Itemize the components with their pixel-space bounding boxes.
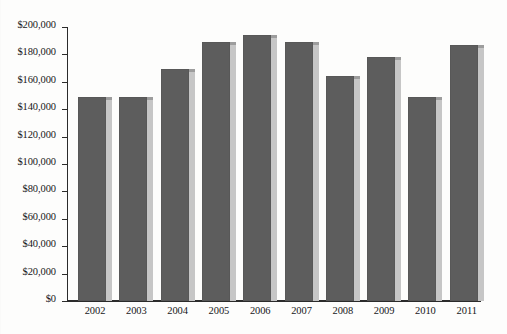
x-axis-tick-label: 2003 xyxy=(116,305,156,316)
bar-group xyxy=(75,27,115,301)
y-axis-tick-label: $200,000 xyxy=(17,19,56,30)
bar-shadow xyxy=(230,45,236,301)
y-axis-tick-label: $20,000 xyxy=(23,266,56,277)
bar-group xyxy=(240,27,280,301)
bar-shadow xyxy=(436,100,442,301)
bar-shadow xyxy=(354,79,360,301)
x-axis-tick-label: 2007 xyxy=(282,305,322,316)
x-axis-tick-label: 2005 xyxy=(199,305,239,316)
plot-area xyxy=(68,27,481,301)
bar-shadow-top xyxy=(271,35,277,38)
y-axis-tick-label: $140,000 xyxy=(17,101,56,112)
bar-group xyxy=(405,27,445,301)
bar-shadow-top xyxy=(354,76,360,79)
y-axis-tick-label: $80,000 xyxy=(23,183,56,194)
bar-group xyxy=(364,27,404,301)
bar[interactable] xyxy=(408,97,436,301)
y-axis-tick-label: $120,000 xyxy=(17,129,56,140)
bar-shadow-top xyxy=(313,42,319,45)
bar-group xyxy=(199,27,239,301)
bar-shadow xyxy=(478,48,484,301)
x-axis-tick-label: 2009 xyxy=(364,305,404,316)
x-axis-tick-label: 2010 xyxy=(405,305,445,316)
bar[interactable] xyxy=(243,35,271,301)
x-axis-tick-label: 2008 xyxy=(323,305,363,316)
y-axis-tick-mark xyxy=(62,191,67,192)
x-axis-tick-label: 2011 xyxy=(447,305,487,316)
bar-shadow xyxy=(147,100,153,301)
y-axis-tick-label: $40,000 xyxy=(23,238,56,249)
bar-shadow-top xyxy=(230,42,236,45)
bar-shadow-top xyxy=(478,45,484,48)
y-axis-tick-mark xyxy=(62,301,67,302)
bar[interactable] xyxy=(285,42,313,301)
bar[interactable] xyxy=(161,69,189,301)
y-axis-tick-label: $60,000 xyxy=(23,211,56,222)
y-axis-tick-label: $160,000 xyxy=(17,74,56,85)
y-axis-tick-mark xyxy=(62,54,67,55)
y-axis-tick-label: $0 xyxy=(46,293,56,304)
y-axis-tick-label: $100,000 xyxy=(17,156,56,167)
bar-shadow-top xyxy=(189,69,195,72)
bar[interactable] xyxy=(119,97,147,301)
x-axis-tick-label: 2004 xyxy=(158,305,198,316)
bar-group xyxy=(116,27,156,301)
x-axis-tick-label: 2002 xyxy=(75,305,115,316)
bar[interactable] xyxy=(326,76,354,301)
bar-shadow xyxy=(395,60,401,301)
bar-shadow xyxy=(313,45,319,301)
bar-shadow-top xyxy=(395,57,401,60)
y-axis-tick-mark xyxy=(62,219,67,220)
bar-shadow-top xyxy=(436,97,442,100)
bar[interactable] xyxy=(450,45,478,301)
y-axis-tick-mark xyxy=(62,274,67,275)
bar[interactable] xyxy=(202,42,230,301)
bar-group xyxy=(158,27,198,301)
bar-chart: $0$20,000$40,000$60,000$80,000$100,000$1… xyxy=(0,0,507,334)
bar-group xyxy=(282,27,322,301)
y-axis-tick-mark xyxy=(62,109,67,110)
bar-group xyxy=(323,27,363,301)
y-axis-tick-mark xyxy=(62,246,67,247)
bar-shadow-top xyxy=(147,97,153,100)
bar-shadow xyxy=(271,38,277,301)
y-axis-tick-mark xyxy=(62,137,67,138)
bar-shadow xyxy=(189,72,195,301)
bar-group xyxy=(447,27,487,301)
y-axis-tick-mark xyxy=(62,82,67,83)
bar[interactable] xyxy=(78,97,106,301)
bar-shadow xyxy=(106,100,112,301)
bar[interactable] xyxy=(367,57,395,301)
x-axis-tick-label: 2006 xyxy=(240,305,280,316)
y-axis-tick-mark xyxy=(62,164,67,165)
bar-shadow-top xyxy=(106,97,112,100)
y-axis-tick-mark xyxy=(62,27,67,28)
y-axis-tick-label: $180,000 xyxy=(17,46,56,57)
